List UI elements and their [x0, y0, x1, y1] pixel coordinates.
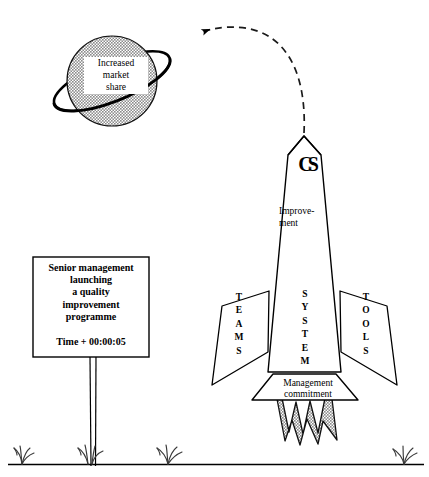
sign-message: Senior management launching a quality im… [36, 262, 146, 323]
sign-post-right [96, 357, 97, 466]
ground-group [8, 445, 424, 465]
grass-tuft [14, 446, 34, 464]
grass-tuft [157, 445, 182, 464]
diagram-canvas: Increased market share Senior management… [0, 0, 429, 477]
fin-right-label-tools: T O O L S [358, 291, 374, 358]
grass-tuft [393, 446, 417, 464]
sign-time-label: Time + 00:00:05 [36, 337, 146, 348]
rocket-improvement-label: Improve- ment [279, 206, 337, 230]
cs-logo: CS [288, 154, 324, 176]
fin-left-label-teams: T E A M S [231, 291, 247, 358]
planet-label: Increased market share [84, 57, 148, 94]
rocket-body-label-system: S Y S T E M [297, 288, 313, 369]
nozzle-label-management-commitment: Management commitment [265, 378, 351, 401]
flight-path [203, 27, 304, 133]
rocket-flames [277, 398, 337, 445]
sign-post-left [90, 357, 91, 466]
scene-artwork [0, 0, 429, 477]
